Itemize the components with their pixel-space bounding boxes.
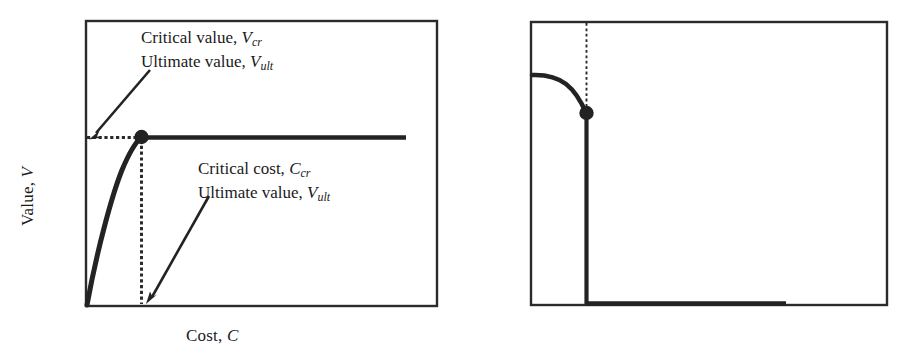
chart-panel-rate-of-value-vs-cost: Cost, C Rate of value, RV	[461, 0, 922, 361]
critical-point-marker	[579, 106, 593, 120]
annotation-line-ultimate-value: Ultimate value, Vult	[141, 51, 273, 75]
symbol-v-ult: V	[250, 52, 260, 71]
y-axis-label-left-wrap: Value, V	[18, 167, 38, 226]
annotation-line-ultimate-value-2: Ultimate value, Vult	[198, 182, 330, 206]
subscript-cr: cr	[252, 35, 262, 49]
figure-canvas: Critical value, Vcr Ultimate value, Vult…	[0, 0, 922, 361]
rate-of-value-vs-cost-plot	[461, 0, 922, 361]
x-axis-symbol-c: C	[227, 326, 239, 345]
annotation-critical-value: Critical value, Vcr Ultimate value, Vult	[141, 27, 273, 74]
annotation-line-critical-cost: Critical cost, Ccr	[198, 158, 330, 182]
subscript-ult: ult	[260, 59, 273, 73]
y-axis-label-left: Value, V	[18, 167, 38, 226]
y-axis-symbol-v: V	[18, 167, 37, 178]
subscript-cr-2: cr	[300, 166, 310, 180]
critical-point-marker	[134, 130, 148, 144]
symbol-c-cr: C	[289, 159, 300, 178]
subscript-ult-2: ult	[317, 190, 330, 204]
x-axis-label-left: Cost, C	[186, 326, 238, 346]
symbol-v-cr: V	[242, 28, 252, 47]
symbol-v-ult-2: V	[307, 183, 317, 202]
annotation-critical-cost: Critical cost, Ccr Ultimate value, Vult	[198, 158, 330, 205]
annotation-line-critical-value: Critical value, Vcr	[141, 27, 273, 51]
chart-panel-value-vs-cost: Critical value, Vcr Ultimate value, Vult…	[0, 0, 461, 361]
